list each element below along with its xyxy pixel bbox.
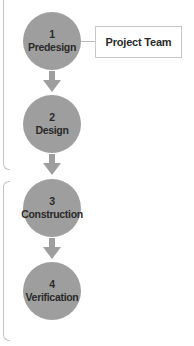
step-label: Verification xyxy=(25,291,78,304)
arrow-down-icon xyxy=(43,71,61,93)
project-team-callout: Project Team xyxy=(95,26,182,58)
phase-bracket-top xyxy=(3,0,10,170)
arrow-down-icon xyxy=(43,238,61,260)
callout-label: Project Team xyxy=(106,36,172,48)
arrow-down-icon xyxy=(43,154,61,176)
callout-connector-line xyxy=(81,41,95,42)
step-number: 2 xyxy=(49,111,55,124)
step-label: Design xyxy=(35,124,68,137)
step-label: Construction xyxy=(21,208,83,221)
step-node-design: 2 Design xyxy=(23,95,81,153)
step-number: 1 xyxy=(49,28,55,41)
step-label: Predesign xyxy=(28,41,76,54)
step-node-predesign: 1 Predesign xyxy=(23,12,81,70)
step-number: 3 xyxy=(49,195,55,208)
step-node-construction: 3 Construction xyxy=(23,179,81,237)
step-number: 4 xyxy=(49,278,55,291)
step-node-verification: 4 Verification xyxy=(23,262,81,320)
phase-bracket-bottom xyxy=(3,181,10,341)
